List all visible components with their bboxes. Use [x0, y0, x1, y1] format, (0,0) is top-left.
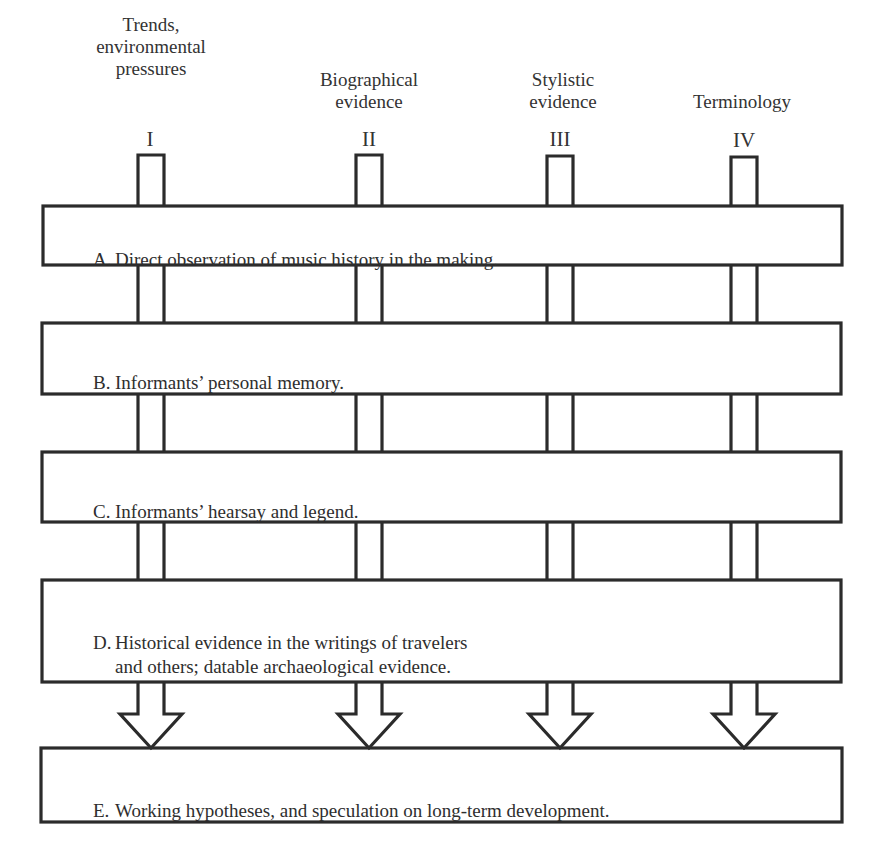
column-header-III: Stylistic evidence	[529, 69, 597, 113]
level-E-letter: E.	[93, 799, 115, 823]
level-C-letter: C.	[93, 500, 115, 524]
level-A-label: A.Direct observation of music history in…	[74, 224, 498, 296]
level-A-letter: A.	[93, 248, 115, 272]
level-A-text: Direct observation of music history in t…	[115, 249, 498, 270]
level-C-label: C.Informants’ hearsay and legend.	[74, 476, 358, 548]
column-header-I: Trends, environmental pressures	[96, 14, 206, 80]
column-numeral-II: II	[362, 128, 376, 150]
level-B-text: Informants’ personal memory.	[115, 372, 344, 393]
level-E-label: E.Working hypotheses, and speculation on…	[74, 775, 609, 847]
column-header-II: Biographical evidence	[320, 69, 418, 113]
column-header-IV: Terminology	[693, 91, 791, 113]
column-numeral-I: I	[147, 128, 154, 150]
level-B-letter: B.	[93, 371, 115, 395]
column-numeral-IV: IV	[733, 129, 755, 151]
column-numeral-III: III	[550, 128, 571, 150]
level-B-label: B.Informants’ personal memory.	[74, 347, 344, 419]
evidence-flow-diagram: Trends, environmental pressures Biograph…	[0, 0, 890, 857]
level-D-label-line2: and others; datable archaeological evide…	[74, 631, 451, 703]
level-E-text: Working hypotheses, and speculation on l…	[115, 800, 609, 821]
level-C-text: Informants’ hearsay and legend.	[115, 501, 358, 522]
diagram-lines	[0, 0, 890, 857]
level-D-text-line2: and others; datable archaeological evide…	[115, 656, 451, 677]
